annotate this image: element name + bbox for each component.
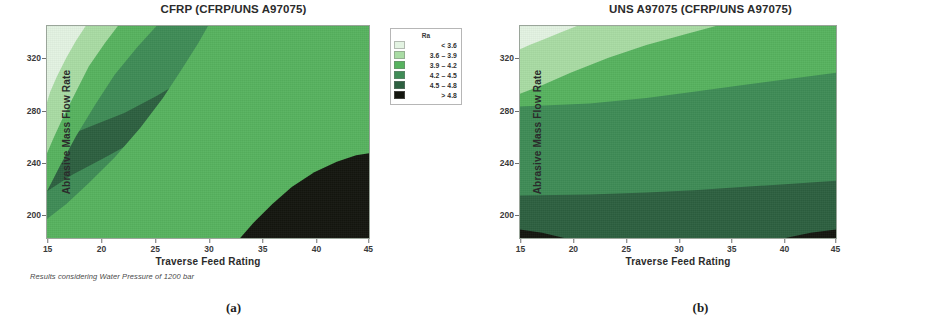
xtick-b-25: 25 [621,244,630,254]
ytick-b-280: 280 [500,106,514,116]
ytick-a-240: 240 [27,158,41,168]
chart-title-a: CFRP (CFRP/UNS A97075) [0,3,467,15]
legend-item-label: 4.2 – 4.5 [409,72,458,79]
x-axis-title-b: Traverse Feed Rating [519,256,837,267]
figure-row: CFRP (CFRP/UNS A97075) [0,0,934,328]
xtick-a-45: 45 [364,244,373,254]
contour-plot-a [46,25,370,239]
legend-item-label: > 4.8 [409,92,458,99]
xtick-b-45: 45 [831,244,840,254]
xtick-a-25: 25 [150,244,159,254]
ytick-b-200: 200 [500,210,514,220]
legend-item: 4.5 – 4.8 [394,80,458,90]
ytick-b-320: 320 [500,53,514,63]
xtick-b-35: 35 [727,244,736,254]
xtick-a-40: 40 [312,244,321,254]
x-axis-title-a: Traverse Feed Rating [46,256,370,267]
legend-item: 3.6 – 3.9 [394,50,458,60]
y-axis-title-b: Abrasive Mass Flow Rate [532,70,543,195]
ytick-a-200: 200 [27,210,41,220]
subfigure-caption-a: (a) [0,300,467,316]
contour-plot-b [519,25,837,239]
xtick-a-30: 30 [204,244,213,254]
footnote-a: Results considering Water Pressure of 12… [30,272,194,281]
xtick-b-40: 40 [780,244,789,254]
xtick-b-20: 20 [569,244,578,254]
legend-swatch-icon [394,51,405,59]
legend-item-label: 3.6 – 3.9 [409,52,458,59]
legend-swatch-icon [394,41,405,49]
legend-title-a: Ra [394,32,458,39]
panel-a: CFRP (CFRP/UNS A97075) [0,0,467,328]
legend-item: 3.9 – 4.2 [394,60,458,70]
legend-item-label: < 3.6 [409,42,458,49]
subfigure-caption-b: (b) [467,300,934,316]
legend-swatch-icon [394,61,405,69]
ytick-b-240: 240 [500,158,514,168]
plot-wrap-b: 320 280 240 200 15 20 25 30 35 40 45 Tra… [519,25,837,239]
legend-item-label: 3.9 – 4.2 [409,62,458,69]
xtick-a-15: 15 [43,244,52,254]
legend-item: < 3.6 [394,40,458,50]
legend-swatch-icon [394,81,405,89]
plot-wrap-a: 320 280 240 200 15 20 25 30 35 40 45 Tra… [46,25,370,239]
xtick-b-30: 30 [674,244,683,254]
ytick-a-280: 280 [27,106,41,116]
legend-item: 4.2 – 4.5 [394,70,458,80]
legend-swatch-icon [394,91,405,99]
legend-item: > 4.8 [394,90,458,100]
chart-title-b: UNS A97075 (CFRP/UNS A97075) [467,3,934,15]
legend-a: Ra < 3.6 3.6 – 3.9 3.9 – 4.2 4.2 – 4.5 4… [390,28,462,105]
xtick-b-15: 15 [516,244,525,254]
xtick-a-35: 35 [258,244,267,254]
legend-item-label: 4.5 – 4.8 [409,82,458,89]
xtick-a-20: 20 [97,244,106,254]
y-axis-title-a: Abrasive Mass Flow Rate [61,70,72,195]
panel-b: UNS A97075 (CFRP/UNS A97075) [467,0,934,328]
ytick-a-320: 320 [27,53,41,63]
legend-swatch-icon [394,71,405,79]
